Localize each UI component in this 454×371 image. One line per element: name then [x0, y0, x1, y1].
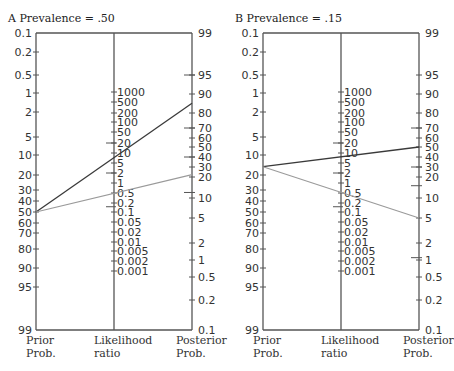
prior-tick-label: 90: [18, 262, 32, 275]
posterior-tick-label: 0.2: [198, 294, 216, 307]
posterior-tick-label: 1: [198, 254, 205, 267]
posterior-axis-label: Posterior: [176, 334, 228, 347]
prior-tick-label: 1: [25, 87, 32, 100]
posterior-tick-label: 2: [198, 237, 205, 250]
likelihood-axis-label: Likelihood: [94, 334, 152, 347]
panel-title: B Prevalence = .15: [235, 12, 342, 25]
posterior-tick-label: 0.5: [198, 271, 216, 284]
prior-axis-label: Prior: [26, 334, 55, 347]
prior-tick-label: 95: [18, 281, 32, 294]
prior-tick-label: 80: [18, 243, 32, 256]
posterior-tick-label: 90: [425, 88, 439, 101]
posterior-tick-label: 99: [425, 27, 439, 40]
posterior-tick-label: 5: [198, 212, 205, 225]
posterior-axis-label: Prob.: [403, 347, 433, 360]
posterior-tick-label: 0.5: [425, 271, 443, 284]
posterior-tick-label: 1: [425, 254, 432, 267]
prior-tick-label: 70: [18, 227, 32, 240]
prior-tick-label: 80: [245, 243, 259, 256]
prior-axis-label: Prob.: [253, 347, 283, 360]
prior-tick-label: 90: [245, 262, 259, 275]
prior-tick-label: 95: [245, 281, 259, 294]
likelihood-tick-label: 0.001: [344, 265, 376, 278]
prior-axis-label: Prior: [253, 334, 282, 347]
likelihood-axis-label: ratio: [321, 347, 348, 360]
likelihood-axis-label: Likelihood: [321, 334, 379, 347]
posterior-axis-label: Prob.: [176, 347, 206, 360]
prior-tick-label: 0.1: [15, 27, 33, 40]
prior-tick-label: 0.2: [242, 46, 260, 59]
prior-tick-label: 20: [245, 169, 259, 182]
prior-tick-label: 0.5: [242, 69, 260, 82]
posterior-axis-label: Posterior: [403, 334, 454, 347]
posterior-tick-label: 99: [198, 27, 212, 40]
posterior-tick-label: 80: [425, 107, 439, 120]
prior-tick-label: 2: [252, 106, 259, 119]
prior-tick-label: 1: [252, 87, 259, 100]
prior-tick-label: 70: [245, 227, 259, 240]
prior-tick-label: 10: [18, 149, 32, 162]
posterior-tick-label: 95: [425, 69, 439, 82]
prior-tick-label: 10: [245, 149, 259, 162]
prior-tick-label: 20: [18, 169, 32, 182]
likelihood-tick-label: 0.001: [117, 265, 149, 278]
prior-axis-label: Prob.: [26, 347, 56, 360]
prior-tick-label: 0.5: [15, 69, 33, 82]
prior-tick-label: 0.2: [15, 46, 33, 59]
posterior-tick-label: 20: [198, 171, 212, 184]
posterior-tick-label: 80: [198, 107, 212, 120]
likelihood-axis-label: ratio: [94, 347, 121, 360]
posterior-tick-label: 10: [425, 192, 439, 205]
prior-tick-label: 2: [25, 106, 32, 119]
posterior-tick-label: 2: [425, 237, 432, 250]
posterior-tick-label: 95: [198, 69, 212, 82]
prior-tick-label: 5: [252, 131, 259, 144]
fagan-nomogram: A Prevalence = .500.10.20.51251020304050…: [0, 0, 454, 371]
posterior-tick-label: 90: [198, 88, 212, 101]
posterior-tick-label: 20: [425, 171, 439, 184]
panel-title: A Prevalence = .50: [7, 12, 115, 25]
prior-tick-label: 0.1: [242, 27, 260, 40]
posterior-tick-label: 5: [425, 212, 432, 225]
prior-tick-label: 5: [25, 131, 32, 144]
posterior-tick-label: 10: [198, 192, 212, 205]
posterior-tick-label: 0.2: [425, 294, 443, 307]
panel-a: A Prevalence = .500.10.20.51251020304050…: [7, 12, 228, 360]
panel-b: B Prevalence = .150.10.20.51251020304050…: [235, 12, 454, 360]
